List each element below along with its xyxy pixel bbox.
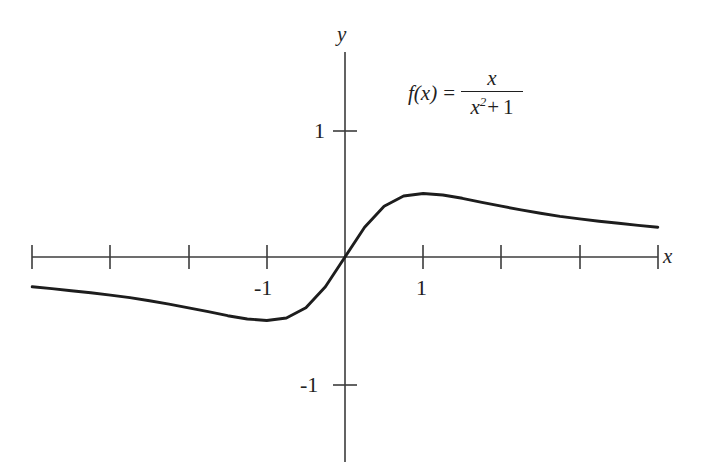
plot-canvas	[0, 0, 710, 475]
x-tick-label-negative-one: -1	[254, 277, 272, 299]
x-tick-label-positive-one: 1	[416, 277, 427, 299]
formula-fraction: x x2+1	[461, 68, 523, 118]
formula-denominator: x2+1	[466, 92, 517, 118]
x-axis-label: x	[663, 246, 672, 267]
formula-denominator-base: x	[470, 95, 479, 119]
y-tick-label-positive-one: 1	[314, 120, 325, 142]
function-formula-annotation: f(x) = x x2+1	[408, 68, 523, 118]
function-graph-figure: y x -1 1 1 -1 f(x) = x x2+1	[0, 0, 710, 475]
formula-numerator: x	[481, 68, 502, 91]
formula-denominator-plus: +	[486, 95, 500, 119]
formula-equals-sign: =	[442, 83, 456, 104]
y-axis-label: y	[337, 24, 346, 45]
formula-denominator-one: 1	[500, 95, 514, 119]
formula-function-name: f(x)	[408, 83, 437, 104]
y-tick-label-negative-one: -1	[300, 374, 318, 396]
